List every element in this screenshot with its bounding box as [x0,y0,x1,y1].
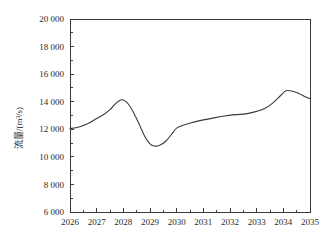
plot-border [70,19,310,212]
y-axis-title: 流量/(m³/s) [13,107,24,149]
x-tick-label: 2032 [221,217,239,227]
x-tick-label: 2027 [88,217,107,227]
plot-frame [70,19,310,212]
flow-rate-series-line [70,90,310,146]
y-tick-label: 6 000 [44,207,65,217]
y-tick-label: 8 000 [44,180,65,190]
x-tick-label: 2035 [301,217,320,227]
y-tick-label: 18 000 [39,42,64,52]
y-tick-label: 16 000 [39,69,64,79]
x-tick-label: 2030 [168,217,187,227]
y-tick-label: 14 000 [39,97,64,107]
y-tick-label: 12 000 [39,124,64,134]
chart-page: 6 0008 00010 00012 00014 00016 00018 000… [0,0,336,248]
flow-rate-line-chart: 6 0008 00010 00012 00014 00016 00018 000… [0,0,336,248]
x-tick-label: 2028 [114,217,133,227]
x-tick-label: 2026 [61,217,80,227]
x-tick-label: 2029 [141,217,160,227]
x-tick-label: 2033 [248,217,267,227]
x-tick-label: 2031 [194,217,212,227]
x-axis-tick-labels: 2026202720282029203020312032203320342035 [61,217,320,227]
x-tick-label: 2034 [274,217,293,227]
y-axis-tick-labels: 6 0008 00010 00012 00014 00016 00018 000… [39,14,64,217]
y-tick-label: 20 000 [39,14,64,24]
y-tick-label: 10 000 [39,152,64,162]
